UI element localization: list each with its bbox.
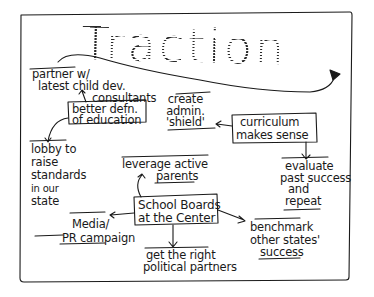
node-better-defn: better defn. of education bbox=[72, 104, 141, 126]
node-text: state bbox=[31, 195, 86, 208]
node-text: Media/ bbox=[72, 217, 135, 231]
node-text: at the Center bbox=[138, 212, 221, 225]
node-curriculum: curriculum makes sense bbox=[236, 117, 308, 141]
node-text: curriculum bbox=[240, 117, 308, 129]
swoosh-arrowhead bbox=[330, 70, 340, 80]
benchmark-overline bbox=[255, 218, 300, 219]
repeat-underline bbox=[284, 209, 320, 210]
node-lobby: lobby to raise standards in our state bbox=[31, 143, 86, 208]
node-leverage-parents: leverage active parents bbox=[122, 159, 208, 182]
lobby-overline bbox=[30, 140, 66, 141]
arrow-curriculum-to-evaluate bbox=[302, 142, 310, 159]
node-benchmark: benchmark other states' success bbox=[250, 221, 320, 259]
media-overline bbox=[70, 212, 105, 213]
node-partner: partner w/ latest child dev. consultants bbox=[32, 69, 156, 105]
traction-diagram: Traction partner w/ latest child dev. co… bbox=[0, 0, 374, 297]
arrow-center-to-political bbox=[169, 225, 177, 247]
node-text: repeat bbox=[285, 196, 351, 208]
diagram-title: Traction bbox=[81, 20, 288, 71]
evaluate-overline bbox=[282, 157, 328, 158]
arrow-curriculum-to-shield bbox=[216, 121, 232, 127]
node-text: political partners bbox=[143, 262, 237, 274]
node-text: 'shield' bbox=[166, 117, 205, 129]
node-media-pr: Media/ PR campaign bbox=[62, 217, 135, 245]
node-create-admin-shield: create admin. 'shield' bbox=[166, 94, 205, 129]
node-text: makes sense bbox=[236, 130, 308, 142]
node-text: parents bbox=[156, 171, 208, 183]
node-school-boards-center: School Boards at the Center bbox=[138, 199, 221, 225]
node-text: standards bbox=[31, 169, 86, 182]
arrow-center-to-benchmark bbox=[218, 210, 245, 223]
node-evaluate: evaluate past success and repeat bbox=[280, 161, 351, 207]
node-text: of education bbox=[72, 115, 141, 127]
state-underline bbox=[35, 235, 63, 236]
node-text: success bbox=[260, 246, 320, 259]
node-text: benchmark bbox=[250, 221, 320, 234]
node-text: PR campaign bbox=[62, 231, 135, 245]
arrow-better-to-lobby bbox=[45, 118, 68, 142]
node-political-partners: get the right political partners bbox=[143, 250, 237, 273]
